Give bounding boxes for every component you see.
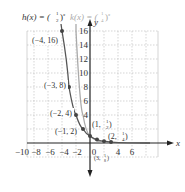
svg-text:(−3, 8): (−3, 8) bbox=[44, 81, 66, 90]
svg-text:(−1, 2): (−1, 2) bbox=[55, 127, 77, 136]
x-tick-labels: −10 −8 −6 −4 −2 4 6 0 bbox=[15, 147, 135, 157]
svg-text:−10: −10 bbox=[15, 147, 30, 157]
svg-text:): ) bbox=[125, 132, 128, 141]
svg-text:(2,: (2, bbox=[108, 132, 117, 141]
svg-text:x: x bbox=[62, 12, 66, 17]
svg-text:6: 6 bbox=[84, 96, 89, 106]
svg-text:10: 10 bbox=[79, 68, 89, 78]
svg-text:(3,: (3, bbox=[94, 155, 101, 162]
svg-text:(−2, 4): (−2, 4) bbox=[50, 109, 72, 118]
svg-text:1: 1 bbox=[101, 11, 104, 16]
y-axis-label: y bbox=[93, 17, 98, 27]
h-formula: h(x) = ( bbox=[22, 12, 51, 22]
svg-text:x: x bbox=[107, 12, 111, 17]
exponential-graph: h(x) = ( 1 2 ) x k(x) = ( 1 4 ) x y x 16… bbox=[0, 0, 185, 192]
svg-text:4: 4 bbox=[84, 110, 89, 120]
svg-text:8: 8 bbox=[84, 82, 89, 92]
y-tick-labels: 16 14 12 10 8 6 4 bbox=[79, 26, 89, 120]
svg-text:12: 12 bbox=[79, 54, 88, 64]
svg-text:16: 16 bbox=[79, 26, 89, 36]
svg-text:14: 14 bbox=[79, 40, 89, 50]
svg-text:8: 8 bbox=[104, 158, 106, 163]
svg-text:−6: −6 bbox=[45, 147, 55, 157]
svg-text:4: 4 bbox=[116, 147, 121, 157]
svg-text:): ) bbox=[109, 120, 112, 129]
svg-text:6: 6 bbox=[130, 147, 135, 157]
svg-text:4: 4 bbox=[101, 18, 104, 23]
svg-text:): ) bbox=[107, 155, 109, 162]
svg-text:(1,: (1, bbox=[92, 120, 101, 129]
svg-text:−2: −2 bbox=[72, 147, 82, 157]
svg-text:−8: −8 bbox=[31, 147, 41, 157]
y-axis-arrow-down-icon bbox=[88, 170, 93, 177]
svg-text:2: 2 bbox=[56, 18, 59, 23]
svg-text:1: 1 bbox=[56, 11, 59, 16]
svg-text:−4: −4 bbox=[59, 147, 69, 157]
x-axis-arrow-icon bbox=[167, 141, 174, 146]
svg-text:(−4, 16): (−4, 16) bbox=[32, 36, 58, 45]
x-axis-label: x bbox=[175, 138, 180, 148]
